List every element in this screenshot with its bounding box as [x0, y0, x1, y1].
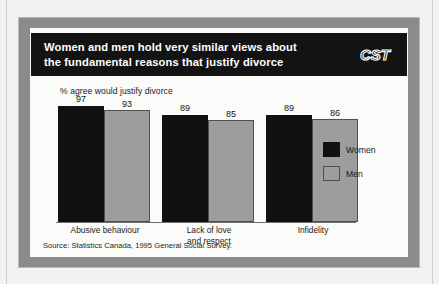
bar-women-2: 89	[266, 115, 312, 222]
title-banner: Women and men hold very similar views ab…	[31, 33, 407, 76]
bar-men-1: 85	[208, 120, 254, 222]
plot-area: 979389858986	[56, 102, 356, 222]
legend-swatch-women-icon	[323, 142, 340, 157]
bar-value-label: 93	[105, 99, 149, 111]
cst-wordmark-icon: CST	[355, 44, 395, 66]
chart-legend: Women Men	[323, 142, 397, 190]
legend-label-women: Women	[346, 145, 375, 155]
bar-value-label: 97	[58, 94, 104, 106]
legend-item-men: Men	[323, 166, 397, 181]
page-background: Women and men hold very similar views ab…	[0, 0, 439, 284]
scan-rule-left	[6, 0, 7, 284]
bar-women-1: 89	[162, 115, 208, 222]
page-title: Women and men hold very similar views ab…	[44, 40, 355, 69]
legend-swatch-men-icon	[323, 166, 340, 181]
chart-area: % agree would justify divorce 9793898589…	[30, 76, 408, 257]
bar-group: 9793	[58, 102, 152, 222]
bar-group: 8985	[162, 102, 256, 222]
bar-value-label: 89	[162, 103, 208, 115]
x-axis-baseline	[56, 222, 356, 223]
bar-men-0: 93	[104, 110, 150, 222]
bar-value-label: 86	[313, 108, 357, 120]
chart-frame: Women and men hold very similar views ab…	[19, 18, 419, 267]
legend-item-women: Women	[323, 142, 397, 157]
legend-label-men: Men	[346, 169, 363, 179]
bar-value-label: 85	[209, 109, 253, 121]
bar-women-0: 97	[58, 106, 104, 222]
bar-value-label: 89	[266, 103, 312, 115]
svg-text:CST: CST	[360, 46, 392, 63]
category-label: Abusive behaviour	[58, 225, 152, 236]
chart-panel: Women and men hold very similar views ab…	[30, 28, 408, 257]
category-label: Lack of love and respect	[162, 225, 256, 246]
scan-rule-right	[432, 0, 433, 284]
category-label: Infidelity	[266, 225, 360, 236]
